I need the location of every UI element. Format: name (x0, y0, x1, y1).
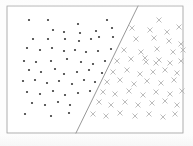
data-point-dot (52, 29, 54, 31)
data-point-dot (95, 30, 97, 32)
data-point-dot (78, 40, 80, 42)
data-point-dot (24, 113, 26, 115)
data-point-dot (57, 101, 59, 103)
data-point-dot (111, 27, 113, 29)
data-point-dot (77, 23, 79, 25)
frame-rect (7, 6, 183, 133)
data-point-dot (23, 60, 25, 62)
data-point-dot (98, 36, 100, 38)
data-point-dot (39, 49, 41, 51)
data-point-dot (51, 47, 53, 49)
data-point-dot (90, 38, 92, 40)
data-point-dot (89, 90, 91, 92)
data-point-dot (52, 90, 54, 92)
scatter-plot (0, 0, 193, 146)
data-point-dot (71, 83, 73, 85)
data-point-dot (44, 104, 46, 106)
data-point-dot (54, 68, 56, 70)
data-point-dot (66, 58, 68, 60)
data-point-dot (69, 104, 71, 106)
data-point-dot (26, 47, 28, 49)
data-point-dot (50, 60, 52, 62)
data-point-dot (74, 49, 76, 51)
data-point-dot (58, 80, 60, 82)
data-point-dot (83, 79, 85, 81)
data-point-dot (92, 63, 94, 65)
data-point-dot (64, 94, 66, 96)
data-point-dot (106, 19, 108, 21)
data-point-dot (101, 72, 103, 74)
data-point-dot (79, 32, 81, 34)
data-point-dot (50, 115, 52, 117)
data-point-dot (63, 73, 65, 75)
data-point-dot (46, 82, 48, 84)
data-point-dot (80, 61, 82, 63)
data-point-dot (22, 80, 24, 82)
figure-container (0, 0, 193, 146)
data-point-dot (63, 31, 65, 33)
data-point-dot (26, 91, 28, 93)
data-point-dot (28, 69, 30, 71)
data-point-dot (32, 38, 34, 40)
data-point-dot (112, 36, 114, 38)
data-point-dot (68, 112, 70, 114)
data-point-dot (34, 79, 36, 81)
data-point-dot (85, 51, 87, 53)
data-point-dot (47, 19, 49, 21)
data-point-dot (39, 93, 41, 95)
data-point-dot (40, 71, 42, 73)
data-point-dot (35, 61, 37, 63)
data-point-dot (28, 19, 30, 21)
data-point-dot (31, 102, 33, 104)
data-point-dot (104, 60, 106, 62)
data-point-dot (77, 92, 79, 94)
data-point-dot (47, 38, 49, 40)
data-point-dot (76, 71, 78, 73)
data-point-dot (94, 81, 96, 83)
data-point-dot (97, 50, 99, 52)
data-point-dot (88, 69, 90, 71)
plot-frame (7, 6, 183, 133)
data-point-dot (64, 38, 66, 40)
data-point-dot (110, 48, 112, 50)
data-point-dot (63, 50, 65, 52)
